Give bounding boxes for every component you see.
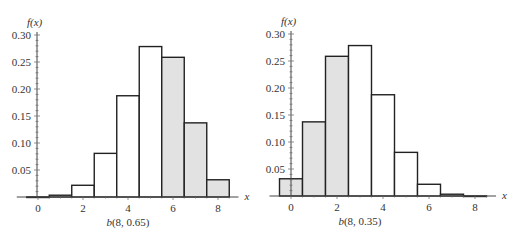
y-tick-label: 0.10 [266,136,286,148]
x-tick-label: 2 [334,201,340,213]
bar-x2 [326,56,349,196]
chart-caption: b(8, 0.65) [106,216,149,229]
y-tick-label: 0.05 [12,164,32,176]
y-tick-label: 0.05 [266,163,286,175]
x-tick-label: 8 [215,202,221,214]
bar-x2 [72,185,95,197]
chart-caption: b(8, 0.35) [338,215,381,228]
y-tick-label: 0.20 [266,82,286,94]
x-axis-label: x [244,190,250,202]
bar-x6 [418,184,441,196]
x-tick-label: 4 [380,201,386,213]
x-tick-label: 0 [35,202,41,214]
bar-x3 [349,46,372,196]
bar-x5 [139,47,162,197]
bar-x8 [207,180,230,197]
bar-x4 [117,96,140,197]
bar-x4 [372,95,395,196]
bar-x6 [162,57,185,197]
x-tick-label: 2 [80,202,86,214]
y-tick-label: 0.15 [266,109,286,121]
x-tick-label: 0 [288,201,294,213]
chart-panel-1: 0.050.100.150.200.250.3002468xf(x)b(8, 0… [12,16,250,229]
y-tick-label: 0.20 [12,83,32,95]
x-tick-label: 6 [426,201,432,213]
y-tick-label: 0.15 [12,110,32,122]
x-tick-label: 8 [472,201,478,213]
y-tick-label: 0.30 [12,29,32,41]
bar-x7 [184,123,207,197]
binomial-histograms: 0.050.100.150.200.250.3002468xf(x)b(8, 0… [0,0,512,238]
y-tick-label: 0.10 [12,137,32,149]
y-tick-label: 0.25 [12,56,32,68]
chart-panel-2: 0.050.100.150.200.250.3002468xf(x)b(8, 0… [266,15,507,228]
y-tick-label: 0.30 [266,28,286,40]
x-tick-label: 4 [125,202,131,214]
bar-x1 [303,122,326,196]
x-tick-label: 6 [170,202,176,214]
bar-x3 [94,153,117,197]
y-axis-label: f(x) [281,15,297,28]
x-axis-label: x [501,189,507,201]
y-axis-label: f(x) [27,16,43,29]
bar-x5 [395,152,418,196]
y-tick-label: 0.25 [266,55,286,67]
